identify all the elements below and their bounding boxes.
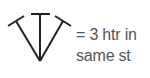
legend-description-line-2: same st [76,46,131,66]
stitch-legend: = 3 htr in same st [0,0,150,78]
three-htr-symbol-icon [0,0,75,78]
legend-description-line-1: = 3 htr in [76,25,137,45]
